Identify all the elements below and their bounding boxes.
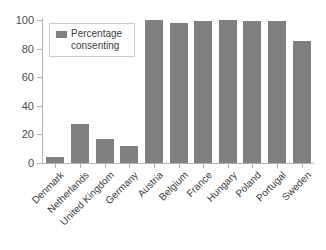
bar xyxy=(46,157,64,163)
x-axis-tick xyxy=(179,164,180,168)
legend-swatch-icon xyxy=(56,31,67,38)
x-axis-tick xyxy=(129,164,130,168)
x-axis-tick xyxy=(55,164,56,168)
bar xyxy=(170,23,188,163)
legend-label: Percentage consenting xyxy=(71,28,122,52)
y-axis-tick-label: 80 xyxy=(0,44,34,55)
x-axis-tick xyxy=(154,164,155,168)
legend: Percentage consenting xyxy=(49,23,135,57)
y-axis-tick xyxy=(37,49,42,50)
x-axis-tick xyxy=(302,164,303,168)
x-axis-tick xyxy=(80,164,81,168)
bar xyxy=(194,21,212,163)
y-axis-tick xyxy=(37,77,42,78)
y-axis-tick xyxy=(37,163,42,164)
y-axis-tick xyxy=(37,134,42,135)
x-axis-tick xyxy=(228,164,229,168)
bar xyxy=(219,20,237,163)
y-axis-tick-label: 0 xyxy=(0,158,34,169)
bar xyxy=(243,21,261,163)
y-axis-tick-label: 20 xyxy=(0,129,34,140)
y-axis-tick xyxy=(37,20,42,21)
bar-chart: 020406080100 DenmarkNetherlandsUnited Ki… xyxy=(0,0,326,250)
y-axis-tick xyxy=(37,106,42,107)
y-axis-tick-label: 100 xyxy=(0,15,34,26)
x-axis-tick xyxy=(252,164,253,168)
x-axis-tick xyxy=(277,164,278,168)
bar xyxy=(268,21,286,163)
x-axis-tick xyxy=(203,164,204,168)
x-axis-tick xyxy=(105,164,106,168)
y-axis-tick-label: 40 xyxy=(0,101,34,112)
y-axis-tick-label: 60 xyxy=(0,72,34,83)
